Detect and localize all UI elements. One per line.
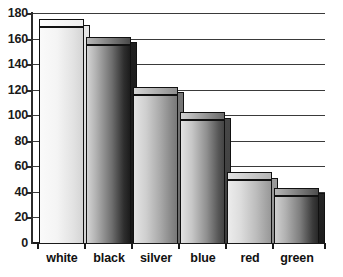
bar-blue[interactable] [180, 120, 225, 243]
bar-cap-red [227, 172, 272, 180]
bar-side-green [318, 193, 325, 243]
x-tick-1 [84, 243, 86, 249]
bar-cap-silver [133, 87, 178, 95]
bar-green[interactable] [274, 196, 319, 243]
x-tick-6 [324, 243, 326, 249]
bar-white[interactable] [39, 27, 84, 243]
x-tick-3 [178, 243, 180, 249]
bar-cap-black [86, 37, 131, 45]
bar-red[interactable] [227, 180, 272, 243]
bar-cap-green [274, 188, 319, 196]
bar-chart: 180 160 140 120 100 80 60 40 20 0 [0, 0, 343, 277]
bar-silver[interactable] [133, 95, 178, 243]
x-label-green: green [268, 252, 326, 265]
x-tick-5 [272, 243, 274, 249]
bar-cap-blue [180, 112, 225, 120]
bars-layer [0, 0, 343, 277]
x-tick-2 [131, 243, 133, 249]
x-tick-4 [225, 243, 227, 249]
x-tick-0 [37, 243, 39, 249]
bar-cap-white [39, 19, 84, 27]
bar-black[interactable] [86, 45, 131, 243]
